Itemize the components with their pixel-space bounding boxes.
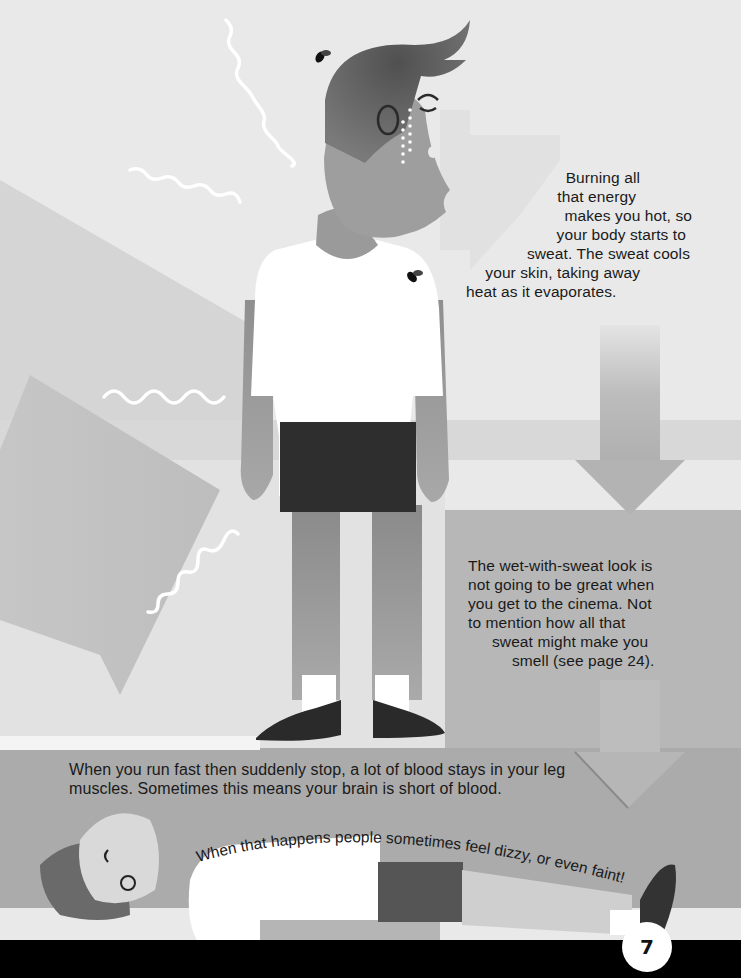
caption-faint-text: When that happens people sometimes feel …	[194, 828, 626, 886]
caption-faint: When that happens people sometimes feel …	[0, 0, 741, 978]
page-number: 7	[622, 922, 672, 972]
book-page: Burning all that energy makes you hot, s…	[0, 0, 741, 978]
svg-text:When that happens people somet: When that happens people sometimes feel …	[194, 828, 626, 886]
